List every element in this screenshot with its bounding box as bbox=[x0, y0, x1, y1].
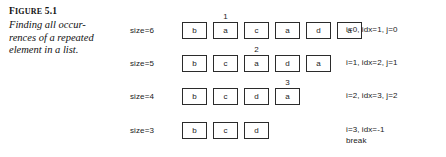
figure-label: FIGURE 5.1 bbox=[9, 6, 117, 17]
list-cell: b bbox=[182, 88, 207, 105]
iteration-state-line: i=2, idx=3, j=2 bbox=[346, 91, 398, 102]
size-label: size=4 bbox=[130, 92, 176, 101]
list-cell: b bbox=[182, 22, 207, 39]
iteration-state-line: i=3, idx=-1 bbox=[346, 125, 384, 136]
match-index-marker: 1 bbox=[212, 12, 239, 21]
diagram-row: size=6bacada1i=0, idx=1, j=0 bbox=[130, 14, 446, 46]
size-label: size=5 bbox=[130, 59, 176, 68]
list-cell: a bbox=[244, 55, 269, 72]
figure-caption-block: FIGURE 5.1 Finding all occur- rences of … bbox=[9, 6, 117, 57]
list-cell: a bbox=[213, 22, 238, 39]
list-cell: b bbox=[182, 122, 207, 139]
list-cell: c bbox=[244, 22, 269, 39]
iteration-state-line: i=0, idx=1, j=0 bbox=[346, 25, 398, 36]
iteration-state-label: i=2, idx=3, j=2 bbox=[346, 91, 398, 102]
list-cell: d bbox=[275, 55, 300, 72]
iteration-state-line: break bbox=[346, 136, 384, 147]
list-cell: d bbox=[244, 122, 269, 139]
list-cell: a bbox=[275, 22, 300, 39]
figure-label-prefix-rest: IGURE bbox=[15, 7, 42, 16]
list-cell: b bbox=[182, 55, 207, 72]
caption-line: Finding all occur- bbox=[9, 19, 117, 32]
size-label: size=6 bbox=[130, 26, 176, 35]
list-cell: a bbox=[275, 88, 300, 105]
figure-caption-text: Finding all occur- rences of a repeated … bbox=[9, 19, 117, 57]
list-cell: a bbox=[306, 55, 331, 72]
list-cell: d bbox=[306, 22, 331, 39]
list-cell: c bbox=[213, 88, 238, 105]
caption-line: rences of a repeated bbox=[9, 32, 117, 45]
iteration-state-label: i=3, idx=-1break bbox=[346, 125, 384, 146]
figure-number: 5.1 bbox=[45, 6, 57, 16]
list-cell: d bbox=[244, 88, 269, 105]
caption-line: element in a list. bbox=[9, 44, 117, 57]
iteration-state-label: i=1, idx=2, j=1 bbox=[346, 58, 398, 69]
diagram-row: size=5bcada2i=1, idx=2, j=1 bbox=[130, 47, 446, 79]
size-label: size=3 bbox=[130, 126, 176, 135]
iteration-state-line: i=1, idx=2, j=1 bbox=[346, 58, 398, 69]
match-index-marker: 3 bbox=[274, 78, 301, 87]
list-cell: c bbox=[213, 122, 238, 139]
list-cell: c bbox=[213, 55, 238, 72]
match-index-marker: 2 bbox=[243, 45, 270, 54]
figure-container: FIGURE 5.1 Finding all occur- rences of … bbox=[0, 0, 446, 157]
iteration-state-label: i=0, idx=1, j=0 bbox=[346, 25, 398, 36]
diagram-row: size=4bcda3i=2, idx=3, j=2 bbox=[130, 80, 446, 112]
list-iteration-diagram: size=6bacada1i=0, idx=1, j=0size=5bcada2… bbox=[130, 0, 446, 157]
diagram-row: size=3bcdi=3, idx=-1break bbox=[130, 114, 446, 146]
